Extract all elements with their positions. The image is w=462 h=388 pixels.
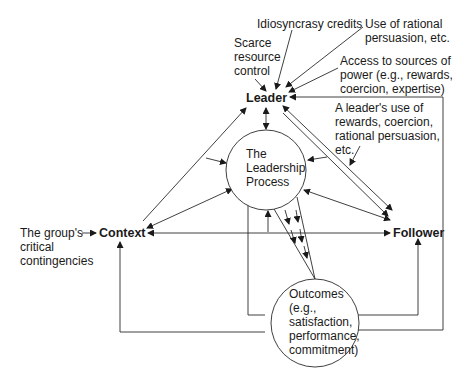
- svg-text:Outcomes: Outcomes: [289, 287, 344, 301]
- node-follower: Follower: [393, 226, 445, 240]
- svg-text:contingencies: contingencies: [20, 254, 93, 268]
- node-leadership-process: The Leadership Process: [226, 130, 306, 210]
- svg-text:The: The: [246, 147, 267, 161]
- label-access-power: Access to sources of power (e.g., reward…: [340, 54, 453, 96]
- node-outcomes: Outcomes (e.g., satisfaction, performanc…: [271, 279, 360, 367]
- svg-text:performance,: performance,: [289, 329, 360, 343]
- label-idiosyncrasy-credits: Idiosyncrasy credits: [257, 17, 362, 31]
- svg-text:(e.g.,: (e.g.,: [289, 301, 316, 315]
- svg-text:control: control: [234, 64, 270, 78]
- svg-text:rewards, coercion,: rewards, coercion,: [335, 115, 433, 129]
- node-leader: Leader: [246, 91, 287, 105]
- svg-text:Access to sources of: Access to sources of: [340, 54, 451, 68]
- svg-text:Use of rational: Use of rational: [365, 17, 442, 31]
- svg-text:rational persuasion,: rational persuasion,: [335, 129, 440, 143]
- label-leaders-use: A leader's use of rewards, coercion, rat…: [335, 101, 440, 157]
- svg-text:commitment): commitment): [289, 343, 358, 357]
- svg-text:The group's: The group's: [20, 226, 83, 240]
- svg-text:A leader's use of: A leader's use of: [335, 101, 424, 115]
- svg-text:Process: Process: [246, 175, 289, 189]
- leadership-process-diagram: Idiosyncrasy credits Use of rational per…: [0, 0, 462, 388]
- svg-text:resource: resource: [234, 50, 281, 64]
- svg-text:Idiosyncrasy credits: Idiosyncrasy credits: [257, 17, 362, 31]
- label-group-contingencies: The group's critical contingencies: [20, 226, 93, 268]
- svg-text:Scarce: Scarce: [234, 36, 272, 50]
- svg-text:etc.: etc.: [335, 143, 354, 157]
- svg-text:critical: critical: [20, 240, 54, 254]
- node-context: Context: [99, 226, 146, 240]
- svg-text:Leadership: Leadership: [246, 161, 306, 175]
- label-scarce-resource-control: Scarce resource control: [234, 36, 281, 78]
- svg-text:power (e.g., rewards,: power (e.g., rewards,: [340, 68, 453, 82]
- svg-text:coercion, expertise): coercion, expertise): [340, 82, 445, 96]
- svg-text:satisfaction,: satisfaction,: [289, 315, 352, 329]
- label-rational-persuasion: Use of rational persuasion, etc.: [365, 17, 450, 45]
- svg-text:persuasion, etc.: persuasion, etc.: [365, 31, 450, 45]
